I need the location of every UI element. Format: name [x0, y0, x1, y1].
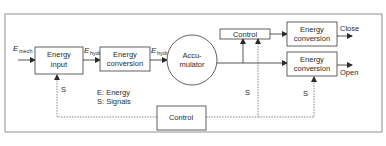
svg-text:Accu-: Accu-: [182, 51, 202, 60]
svg-text:hydr: hydr: [157, 50, 168, 56]
signal-label-mid: S: [245, 88, 250, 97]
svg-text:S: Signals: S: Signals: [97, 97, 131, 106]
svg-text:hydr: hydr: [90, 50, 101, 56]
svg-text:conversion: conversion: [294, 64, 330, 73]
svg-text:conversion: conversion: [294, 34, 330, 43]
control-block-bottom: Control: [157, 106, 206, 130]
control-block-top: Control: [220, 29, 270, 39]
energy-conversion-block-close: Energy conversion: [287, 22, 337, 46]
energy-conversion-block-1: Energy conversion: [100, 47, 150, 71]
signal-label-left: S: [61, 85, 66, 94]
svg-text:input: input: [51, 60, 68, 69]
svg-text:E: Energy: E: Energy: [97, 88, 130, 97]
svg-text:Control: Control: [233, 30, 258, 39]
svg-text:Energy: Energy: [300, 55, 324, 64]
accumulator-block: Accu- mulator: [167, 35, 217, 85]
svg-text:Energy: Energy: [300, 25, 324, 34]
svg-text:Control: Control: [169, 113, 194, 122]
svg-text:Energy: Energy: [113, 50, 137, 59]
e-mech-label: E mech: [13, 44, 32, 54]
open-output-label: Open: [340, 68, 358, 77]
e-hydr-label-2: E hydr: [151, 46, 168, 56]
signal-label-right: S: [303, 89, 308, 98]
e-hydr-label-1: E hydr: [84, 46, 101, 56]
svg-text:mulator: mulator: [179, 60, 205, 69]
energy-input-block: Energy input: [35, 47, 83, 74]
close-output-label: Close: [340, 24, 359, 33]
svg-text:mech: mech: [19, 48, 32, 54]
energy-conversion-block-open: Energy conversion: [287, 52, 337, 76]
hydraulic-system-diagram: E mech Energy input E hydr Energy conver…: [0, 0, 386, 146]
svg-text:Energy: Energy: [47, 50, 71, 59]
legend: E: Energy S: Signals: [97, 88, 131, 106]
svg-text:conversion: conversion: [107, 59, 143, 68]
